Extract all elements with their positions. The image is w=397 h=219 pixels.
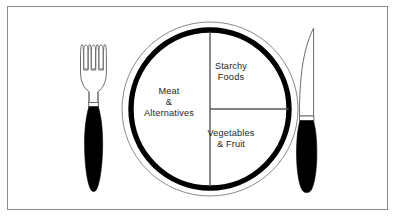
knife <box>288 24 328 196</box>
plate-section-label-vegetables-fruit: Vegetables & Fruit <box>197 128 265 150</box>
fork-handle <box>85 107 103 192</box>
fork <box>72 36 116 196</box>
plate-section-label-starchy-foods: Starchy Foods <box>200 61 262 83</box>
fork-head <box>81 45 107 104</box>
knife-bolster <box>300 116 314 121</box>
plate-section-label-meat: Meat & Alternatives <box>133 86 205 120</box>
fork-ferrule <box>89 103 99 107</box>
knife-handle <box>297 121 317 193</box>
diagram-canvas: Meat & Alternatives Starchy Foods Vegeta… <box>0 0 397 219</box>
knife-blade <box>300 28 314 116</box>
